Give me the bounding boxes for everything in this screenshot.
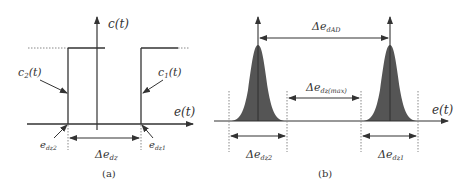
x-axis-label: e(t) xyxy=(174,105,196,119)
c1-label: c1(t) xyxy=(158,66,182,80)
edz1-pointer xyxy=(142,125,153,138)
panel-a: c(t) e(t) c2(t) c1(t) edz2 edz1 Δedz (a) xyxy=(18,17,196,179)
right-width-label: Δedz1 xyxy=(377,148,404,162)
edz2-label: edz2 xyxy=(40,139,57,151)
c1-pointer xyxy=(143,80,163,93)
y-axis-label: c(t) xyxy=(108,17,129,31)
x-axis-label-b: e(t) xyxy=(432,103,454,117)
edz1-label: edz1 xyxy=(149,139,166,151)
caption-b: (b) xyxy=(318,168,332,179)
c2-pointer xyxy=(40,80,67,93)
width-label: Δedz xyxy=(94,148,118,162)
edz2-pointer xyxy=(54,125,67,138)
panel-b: ΔedAD Δedz(max) e(t) Δedz2 Δedz1 (b) xyxy=(214,17,454,179)
peak-distance-label: ΔedAD xyxy=(311,20,341,34)
c2-label: c2(t) xyxy=(18,66,42,80)
left-width-label: Δedz2 xyxy=(245,148,272,162)
dead-zone-diagram: c(t) e(t) c2(t) c1(t) edz2 edz1 Δedz (a)… xyxy=(0,0,468,185)
caption-a: (a) xyxy=(102,168,116,179)
gap-label: Δedz(max) xyxy=(305,81,347,95)
